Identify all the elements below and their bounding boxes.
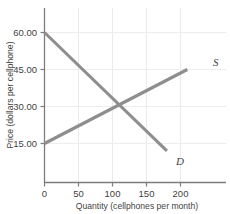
x-axis-title: Quantity (cellphones per month) bbox=[76, 201, 198, 211]
chart-svg: 15.00 30.00 45.00 60.00 0 50 100 150 200… bbox=[0, 0, 230, 214]
y-tick-label-15: 15.00 bbox=[13, 138, 37, 149]
y-tick-label-45: 45.00 bbox=[13, 64, 37, 75]
x-tick-label-50: 50 bbox=[73, 188, 84, 199]
supply-demand-chart-figure: 15.00 30.00 45.00 60.00 0 50 100 150 200… bbox=[0, 0, 230, 214]
x-tick-label-0: 0 bbox=[42, 188, 47, 199]
x-tick-label-150: 150 bbox=[139, 188, 155, 199]
y-tick-label-60: 60.00 bbox=[13, 27, 37, 38]
y-tick-label-30: 30.00 bbox=[13, 101, 37, 112]
x-tick-label-200: 200 bbox=[173, 188, 189, 199]
y-axis-title: Price (dollars per cellphone) bbox=[5, 41, 15, 148]
x-tick-label-100: 100 bbox=[105, 188, 121, 199]
demand-curve-label: D bbox=[175, 155, 184, 167]
supply-curve-label: S bbox=[213, 56, 219, 68]
